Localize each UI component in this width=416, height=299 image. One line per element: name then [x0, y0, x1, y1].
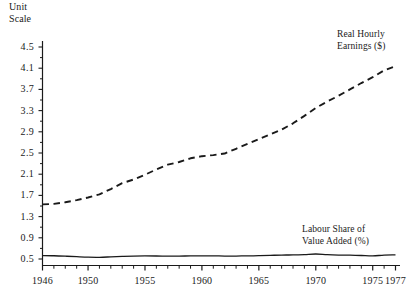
x-axis-ticks: [43, 266, 396, 271]
x-axis-tick-label: 1970: [296, 276, 336, 286]
series-line-labour-share: [43, 254, 396, 257]
series-paths: [43, 66, 396, 257]
x-axis-tick-label: 1955: [125, 276, 165, 286]
y-axis-tick-label: 1.7: [2, 190, 34, 200]
y-axis-ticks: [39, 47, 43, 259]
x-axis-tick-label: 1960: [182, 276, 222, 286]
y-axis-tick-label: 2.1: [2, 169, 34, 179]
y-axis-tick-label: 0.5: [2, 254, 34, 264]
y-axis-tick-label: 3.7: [2, 84, 34, 94]
y-axis-tick-label: 2.9: [2, 127, 34, 137]
x-axis-tick-label: 1965: [239, 276, 279, 286]
chart-container: Unit Scale Real Hourly Earnings ($) Labo…: [0, 0, 416, 299]
y-axis-tick-label: 0.9: [2, 233, 34, 243]
y-axis-tick-label: 3.3: [2, 106, 34, 116]
y-axis-tick-label: 4.5: [2, 42, 34, 52]
chart-plot-area: [0, 0, 416, 299]
x-axis-tick-label: 1946: [23, 276, 63, 286]
x-axis-tick-label: 1977: [376, 276, 416, 286]
y-axis-tick-label: 4.1: [2, 63, 34, 73]
x-axis-tick-label: 1950: [68, 276, 108, 286]
y-axis-tick-label: 1.3: [2, 212, 34, 222]
y-axis-tick-label: 2.5: [2, 148, 34, 158]
series-line-real-hourly-earnings: [43, 66, 396, 204]
